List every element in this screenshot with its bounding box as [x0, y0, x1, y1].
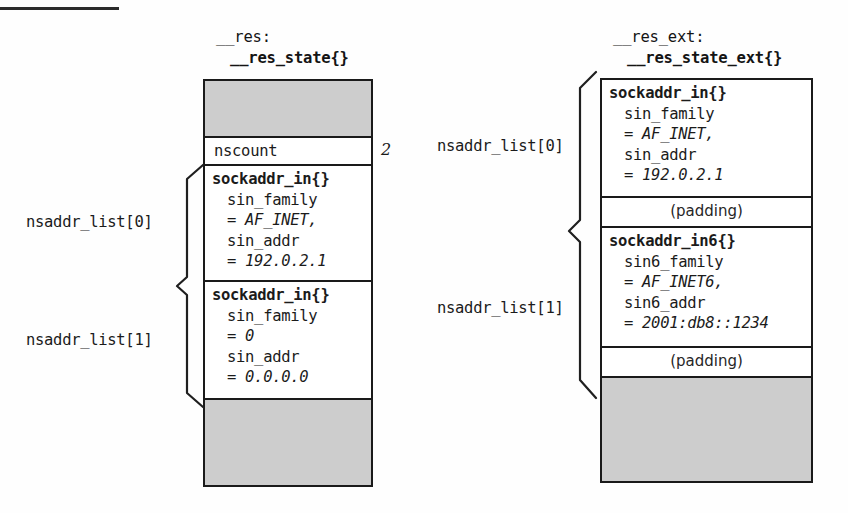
member-value-1: = 0	[212, 326, 371, 347]
left-struct-varname: __res:	[216, 27, 349, 48]
member-value-2: = 192.0.2.1	[212, 251, 371, 272]
member-field-2: sin6_addr	[609, 293, 811, 314]
member-value-2: = 2001:db8::1234	[609, 313, 811, 334]
member-block: sockaddr_in{} sin_family = AF_INET, sin_…	[602, 80, 811, 190]
figure-canvas: __res: __res_state{} nscount sockaddr_in…	[0, 0, 848, 513]
member-field-1: sin6_family	[609, 252, 811, 273]
right-struct-box: sockaddr_in{} sin_family = AF_INET, sin_…	[600, 78, 813, 483]
member-value-1: = AF_INET6,	[609, 272, 811, 293]
left-seg-sockaddr-in-1: sockaddr_in{} sin_family = 0 sin_addr = …	[205, 282, 371, 400]
left-struct-heading: __res: __res_state{}	[216, 27, 349, 69]
member-field-2: sin_addr	[212, 231, 371, 252]
right-struct-varname: __res_ext:	[613, 27, 782, 48]
left-seg-nscount: nscount	[205, 138, 371, 166]
member-block: sockaddr_in6{} sin6_family = AF_INET6, s…	[602, 228, 811, 338]
member-value-1: = AF_INET,	[609, 124, 811, 145]
right-label-nsaddr-0: nsaddr_list[0]	[437, 137, 563, 155]
left-struct-typename: __res_state{}	[216, 48, 349, 69]
member-type: sockaddr_in{}	[609, 83, 811, 104]
padding-label: (padding)	[602, 198, 811, 226]
right-seg-sockaddr-in6: sockaddr_in6{} sin6_family = AF_INET6, s…	[602, 228, 811, 348]
nscount-label: nscount	[205, 138, 371, 166]
member-type: sockaddr_in{}	[212, 169, 371, 190]
member-value-2: = 192.0.2.1	[609, 165, 811, 186]
left-label-nsaddr-1: nsaddr_list[1]	[26, 331, 152, 349]
member-block: sockaddr_in{} sin_family = AF_INET, sin_…	[205, 166, 371, 276]
top-rule	[0, 7, 119, 10]
padding-label: (padding)	[602, 348, 811, 376]
nscount-value: 2	[381, 140, 391, 159]
right-seg-gray-bottom	[602, 378, 811, 481]
member-block: sockaddr_in{} sin_family = 0 sin_addr = …	[205, 282, 371, 392]
member-value-2: = 0.0.0.0	[212, 367, 371, 388]
member-type: sockaddr_in6{}	[609, 231, 811, 252]
right-seg-padding-0: (padding)	[602, 198, 811, 228]
right-seg-padding-1: (padding)	[602, 348, 811, 378]
member-field-2: sin_addr	[609, 145, 811, 166]
left-seg-sockaddr-in-0: sockaddr_in{} sin_family = AF_INET, sin_…	[205, 166, 371, 282]
member-field-1: sin_family	[212, 306, 371, 327]
right-struct-typename: __res_state_ext{}	[613, 48, 782, 69]
left-label-nsaddr-0: nsaddr_list[0]	[26, 213, 152, 231]
member-value-1: = AF_INET,	[212, 210, 371, 231]
right-struct-heading: __res_ext: __res_state_ext{}	[613, 27, 782, 69]
member-field-2: sin_addr	[212, 347, 371, 368]
right-nsaddr-brace	[566, 70, 600, 400]
left-nsaddr-brace	[173, 163, 207, 409]
member-type: sockaddr_in{}	[212, 285, 371, 306]
member-field-1: sin_family	[609, 104, 811, 125]
left-seg-gray-bottom	[205, 400, 371, 485]
left-seg-gray-top	[205, 81, 371, 138]
right-label-nsaddr-1: nsaddr_list[1]	[437, 299, 563, 317]
member-field-1: sin_family	[212, 190, 371, 211]
right-seg-sockaddr-in: sockaddr_in{} sin_family = AF_INET, sin_…	[602, 80, 811, 198]
left-struct-box: nscount sockaddr_in{} sin_family = AF_IN…	[203, 79, 373, 487]
